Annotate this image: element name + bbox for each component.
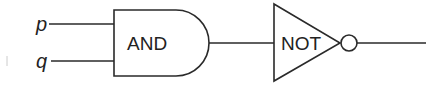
inversion-bubble — [341, 35, 357, 51]
input-label-p: p — [35, 13, 47, 35]
logic-circuit-diagram: p q AND NOT — [0, 0, 445, 87]
and-gate-label: AND — [127, 33, 167, 54]
not-gate-label: NOT — [281, 33, 322, 54]
input-label-q: q — [36, 50, 47, 72]
